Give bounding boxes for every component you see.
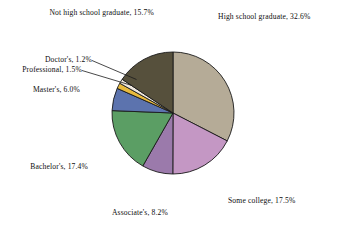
slice-label-high-school-graduate: High school graduate, 32.6%	[218, 12, 340, 21]
pie-slices-group: High school graduate, 32.6%Some college,…	[112, 52, 234, 174]
slice-label-masters: Master's, 6.0%	[0, 85, 80, 94]
slice-label-bachelors: Bachelor's, 17.4%	[0, 162, 88, 171]
slice-label-professional: Professional, 1.5%	[0, 65, 82, 74]
pie-chart-svg: High school graduate, 32.6%Some college,…	[0, 0, 342, 229]
slice-label-some-college: Some college, 17.5%	[228, 196, 338, 205]
slice-label-associates: Associate's, 8.2%	[0, 208, 168, 217]
slice-label-not-high-school-graduate: Not high school graduate, 15.7%	[4, 8, 154, 17]
slice-label-doctors: Doctor's, 1.2%	[0, 55, 92, 64]
chart-page: High school graduate, 32.6%Some college,…	[0, 0, 342, 229]
